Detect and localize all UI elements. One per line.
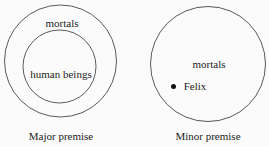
major-inner-circle-human-beings — [23, 30, 96, 103]
major-inner-label: human beings — [30, 69, 91, 80]
minor-set-label: mortals — [193, 59, 226, 70]
major-outer-label: mortals — [46, 18, 79, 29]
syllogism-euler-diagram: mortals human beings Major premise morta… — [0, 0, 269, 147]
minor-premise-caption: Minor premise — [175, 131, 240, 142]
point-marker-icon — [171, 84, 176, 89]
major-premise-caption: Major premise — [29, 131, 93, 142]
minor-element-label: Felix — [184, 81, 207, 92]
